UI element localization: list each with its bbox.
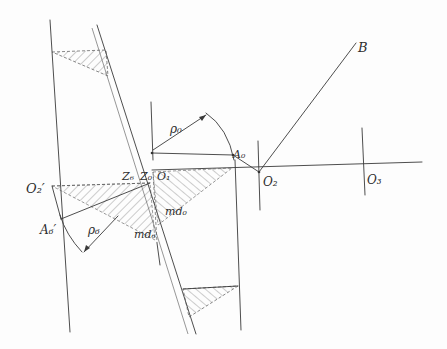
label-o1: O₁ — [157, 170, 170, 183]
label-rho0: ρ₀ — [169, 122, 182, 136]
label-z6: Z₆ — [121, 170, 135, 183]
bottom-hatched-region — [183, 286, 238, 317]
md6-vertical-line — [157, 243, 160, 265]
label-md6: md₆ — [134, 228, 156, 241]
left-vertical-line — [50, 20, 70, 332]
o1-vertical-line — [151, 102, 153, 160]
label-b: B — [357, 40, 368, 55]
label-rho6: ρ₆ — [87, 223, 100, 237]
construction-drawing: B A₀ O₂ O₃ O₁ Z₀ Z₆ O₂′ A₆′ ρ₀ ρ₆ md₀ md… — [0, 0, 447, 349]
label-a0: A₀ — [232, 148, 246, 161]
top-hatched-region — [52, 50, 108, 76]
label-md0: md₀ — [165, 205, 187, 218]
label-z0: Z₀ — [139, 170, 153, 183]
o2-vertical-line — [258, 141, 260, 210]
o2prime-a6prime-line — [52, 186, 61, 219]
rho0-arrowhead-icon — [199, 115, 206, 121]
diagram-canvas: B A₀ O₂ O₃ O₁ Z₀ Z₆ O₂′ A₆′ ρ₀ ρ₆ md₀ md… — [0, 0, 447, 349]
o3-vertical-line — [362, 128, 365, 195]
rho0-arc — [206, 113, 234, 160]
main-axis-line — [152, 162, 422, 170]
label-o3: O₃ — [367, 173, 382, 187]
label-o2: O₂ — [263, 175, 278, 189]
o2-b-line — [259, 43, 356, 172]
point-o2 — [258, 171, 261, 174]
label-a6-prime: A₆′ — [39, 223, 56, 237]
right-vertical-line — [235, 160, 241, 330]
label-o2-prime: O₂′ — [26, 181, 45, 196]
point-o1 — [151, 152, 154, 155]
o1-a0-line — [152, 153, 233, 155]
